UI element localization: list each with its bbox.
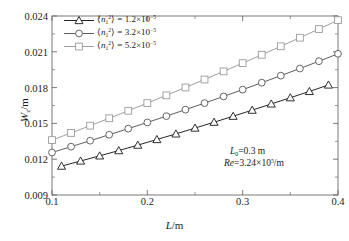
annotation-Re-base: 10 — [261, 158, 271, 168]
legend-marker-square-icon — [64, 39, 94, 52]
x-axis-tick-label: 0.4 — [331, 196, 344, 207]
annotation-Re-symbol: Re — [224, 158, 234, 168]
legend-superscript: 2 — [108, 27, 111, 33]
legend-exponent: −5 — [150, 27, 156, 33]
x-axis-tick-label: 0.3 — [236, 196, 249, 207]
legend-superscript: 2 — [108, 14, 111, 20]
x-axis-tick-labels: 0.10.20.30.4 — [0, 0, 349, 241]
y-axis-title-symbol: W — [18, 113, 30, 122]
legend-exponent: −5 — [150, 14, 156, 20]
chart-figure: 0.0090.0120.0150.0180.0210.024 0.10.20.3… — [0, 0, 349, 241]
x-axis-tick-label: 0.1 — [45, 196, 58, 207]
annotation-Re-value: =3.24 — [234, 158, 256, 168]
x-axis-tick-label: 0.2 — [141, 196, 154, 207]
annotation-Re: Re=3.24×105/m — [224, 158, 284, 168]
annotation-Re-unit: /m — [274, 158, 284, 168]
legend-marker-triangle-icon — [64, 13, 94, 26]
y-axis-title: Wz/m — [18, 80, 30, 140]
y-axis-title-subscript: z — [24, 110, 31, 113]
annotation-L0: L0=0.3 m — [230, 146, 265, 156]
x-axis-title: L/m — [0, 219, 349, 231]
x-axis-title-unit: /m — [172, 219, 184, 231]
chart-legend: ⟨n12⟩ = 1.2×10−5⟨n12⟩ = 3.2×10−5⟨n12⟩ = … — [64, 13, 156, 52]
legend-marker-circle-icon — [64, 26, 94, 39]
legend-item-2: ⟨n12⟩ = 3.2×10−5 — [64, 26, 156, 39]
legend-exponent: −5 — [150, 40, 156, 46]
legend-label-2: ⟨n12⟩ = 3.2×10−5 — [97, 26, 156, 39]
legend-superscript: 2 — [108, 40, 111, 46]
y-axis-title-unit: /m — [18, 98, 30, 110]
legend-item-1: ⟨n12⟩ = 1.2×10−5 — [64, 13, 156, 26]
legend-label-1: ⟨n12⟩ = 1.2×10−5 — [97, 13, 156, 26]
legend-item-3: ⟨n12⟩ = 5.2×10−5 — [64, 39, 156, 52]
annotation-L0-value: =0.3 m — [238, 146, 265, 156]
legend-label-3: ⟨n12⟩ = 5.2×10−5 — [97, 39, 156, 52]
